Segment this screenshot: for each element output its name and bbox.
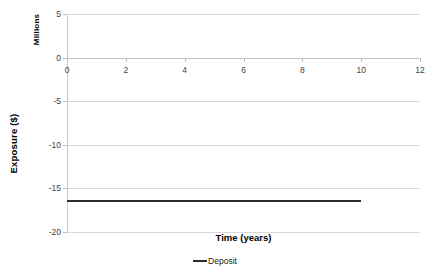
x-tick-label: 6 [241,65,246,75]
chart-legend: Deposit [0,256,430,266]
x-axis-title: Time (years) [67,232,420,243]
x-tick-label: 2 [123,65,128,75]
y-tick-mark [63,145,67,146]
y-axis-unit-label: Millions [32,0,41,70]
x-tick-label: 8 [300,65,305,75]
y-axis-line [67,14,68,232]
x-tick-mark [244,58,245,62]
x-tick-mark [361,58,362,62]
x-tick-label: 12 [415,65,424,75]
x-tick-mark [302,58,303,62]
plot-area: 50-5-10-15-20 024681012 [67,14,420,232]
x-tick-label: 4 [182,65,187,75]
x-tick-label: 0 [65,65,70,75]
legend-item-deposit: Deposit [193,256,237,266]
gridline [67,145,420,146]
y-tick-label: 0 [56,53,61,63]
y-tick-mark [63,188,67,189]
y-tick-mark [63,14,67,15]
y-tick-label: -15 [49,183,61,193]
y-tick-mark [63,101,67,102]
y-tick-label: -20 [49,227,61,237]
y-axis-title: Exposure ($) [8,84,19,204]
line-chart: Exposure ($) Millions 50-5-10-15-20 0246… [0,0,430,276]
gridline [67,101,420,102]
gridline [67,14,420,15]
y-tick-label: 5 [56,9,61,19]
x-tick-mark [126,58,127,62]
x-tick-mark [420,58,421,62]
y-tick-label: -10 [49,140,61,150]
legend-line-swatch [193,260,207,262]
x-tick-label: 10 [356,65,365,75]
series-line-deposit [67,200,361,202]
y-tick-label: -5 [53,96,61,106]
gridline [67,188,420,189]
x-tick-mark [185,58,186,62]
legend-item-label: Deposit [208,256,237,266]
x-tick-mark [67,58,68,62]
